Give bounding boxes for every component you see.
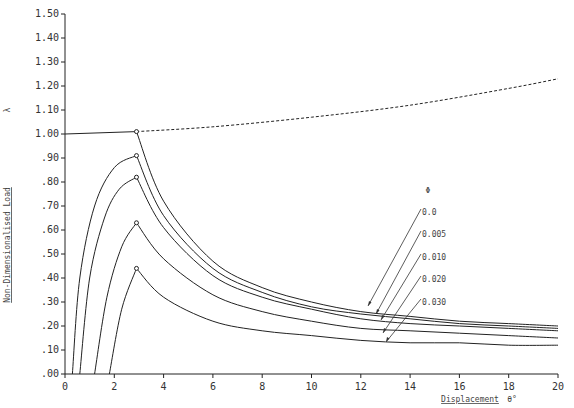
y-tick-label: .70 bbox=[41, 200, 59, 211]
x-tick-label: 16 bbox=[453, 381, 465, 392]
y-tick-label: .90 bbox=[41, 152, 59, 163]
y-tick-label: .60 bbox=[41, 224, 59, 235]
curve-post-buckling-rising-path bbox=[136, 79, 558, 132]
y-tick-label: .80 bbox=[41, 176, 59, 187]
curve-perfect-0-pre-buckling bbox=[65, 132, 136, 134]
y-tick-label: .00 bbox=[41, 368, 59, 379]
y-axis-ticks: .00.10.20.30.40.50.60.70.80.901.001.101.… bbox=[35, 8, 65, 379]
legend-entry: 0.030 bbox=[422, 298, 446, 307]
x-tick-label: 6 bbox=[210, 381, 216, 392]
y-axis-label: Non-Dimensionalised Load bbox=[3, 187, 12, 303]
peak-marker-circle bbox=[134, 175, 138, 179]
y-tick-label: 1.00 bbox=[35, 128, 59, 139]
x-tick-label: 4 bbox=[161, 381, 167, 392]
legend-title: Φ bbox=[426, 186, 431, 195]
peak-marker-circle bbox=[134, 266, 138, 270]
x-axis-unit: θ° bbox=[507, 395, 517, 404]
x-tick-label: 18 bbox=[503, 381, 515, 392]
x-tick-label: 10 bbox=[305, 381, 317, 392]
y-tick-label: 1.20 bbox=[35, 80, 59, 91]
legend-entry: 0.020 bbox=[422, 275, 446, 284]
x-axis-ticks: 02468101214161820 bbox=[62, 374, 564, 392]
y-tick-label: 1.50 bbox=[35, 8, 59, 19]
y-tick-label: .50 bbox=[41, 248, 59, 259]
peak-markers bbox=[134, 130, 138, 271]
x-tick-label: 0 bbox=[62, 381, 68, 392]
peak-marker-circle bbox=[134, 154, 138, 158]
x-tick-label: 12 bbox=[355, 381, 367, 392]
y-axis-symbol: λ bbox=[3, 107, 12, 112]
y-tick-label: .20 bbox=[41, 320, 59, 331]
load-displacement-chart: .00.10.20.30.40.50.60.70.80.901.001.101.… bbox=[0, 0, 574, 408]
peak-marker-circle bbox=[134, 130, 138, 134]
x-tick-label: 20 bbox=[552, 381, 564, 392]
legend-entry: 0.005 bbox=[422, 230, 446, 239]
curve-0-005 bbox=[72, 156, 558, 374]
arrow-icon bbox=[368, 301, 372, 306]
legend-entry: 0.010 bbox=[422, 253, 446, 262]
y-tick-label: .10 bbox=[41, 344, 59, 355]
x-tick-label: 2 bbox=[111, 381, 117, 392]
x-tick-label: 8 bbox=[259, 381, 265, 392]
y-tick-label: 1.30 bbox=[35, 56, 59, 67]
x-tick-label: 14 bbox=[404, 381, 416, 392]
peak-marker-circle bbox=[134, 221, 138, 225]
curve-0-0 bbox=[136, 132, 558, 326]
curves bbox=[65, 79, 558, 374]
y-tick-label: 1.10 bbox=[35, 104, 59, 115]
x-axis-label: Displacement bbox=[441, 395, 499, 404]
axes bbox=[65, 14, 558, 374]
curve-0-030 bbox=[109, 268, 558, 374]
y-tick-label: 1.40 bbox=[35, 32, 59, 43]
y-tick-label: .40 bbox=[41, 272, 59, 283]
legend-entry: 0.0 bbox=[422, 208, 437, 217]
curve-0-020 bbox=[95, 223, 558, 374]
y-tick-label: .30 bbox=[41, 296, 59, 307]
